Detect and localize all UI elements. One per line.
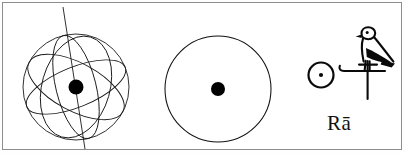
falcon-beak xyxy=(356,34,362,38)
falcon-eye xyxy=(366,31,369,34)
standard-hook xyxy=(339,66,345,71)
sun-disk-drawing xyxy=(143,3,283,151)
sun-disk-center-dot xyxy=(211,82,225,96)
sphere-center-dot xyxy=(69,80,84,95)
panel-sun-disk xyxy=(143,3,283,151)
polar-axis-line xyxy=(63,7,85,149)
sun-disk-hieroglyph-dot xyxy=(319,73,323,77)
figure-frame: Rā xyxy=(2,2,402,150)
ra-transliteration-label: Rā xyxy=(327,113,351,134)
panel-armillary-sphere xyxy=(3,3,143,151)
figure-root: Rā xyxy=(0,0,406,154)
falcon-on-standard-hieroglyph xyxy=(339,27,395,99)
falcon-breast-line xyxy=(362,39,364,62)
panel-hieroglyph-group: Rā xyxy=(283,3,403,151)
sun-disk-hieroglyph xyxy=(309,63,334,88)
armillary-sphere-drawing xyxy=(3,3,143,151)
hieroglyph-drawing xyxy=(283,3,403,115)
